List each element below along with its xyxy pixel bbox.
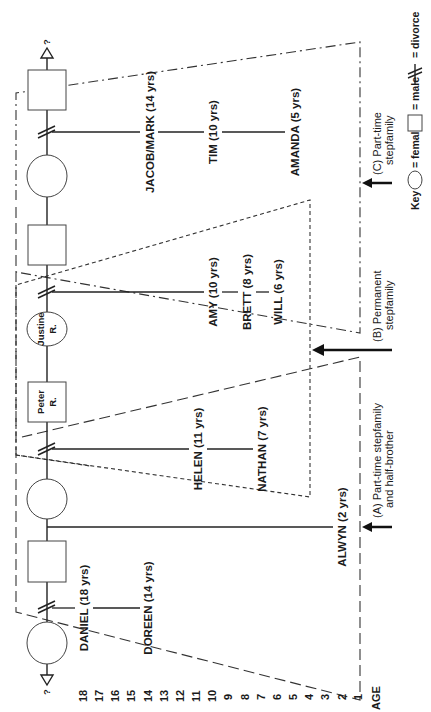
age-tick: 6 [271, 694, 283, 700]
age-tick: 2 [336, 694, 348, 700]
child-will: WILL (6 yrs) [272, 259, 284, 325]
member-label-justine: Justine [35, 312, 46, 345]
age-axis-label: AGE [370, 686, 382, 710]
key-divorce-label: = divorce [409, 11, 421, 58]
stepfamily-b-label: (B) Permanent [371, 270, 383, 342]
key-male-icon [408, 115, 422, 131]
unknown-ancestor-bottom-icon [41, 675, 53, 685]
male-symbol [28, 225, 66, 265]
member-label-peter: Peter [35, 390, 46, 414]
age-tick: 4 [303, 693, 315, 700]
member-label-peter-initial: R. [47, 397, 58, 407]
key-title: Key [409, 191, 421, 210]
child-jacob-mark: JACOB/MARK (14 yrs) [144, 71, 156, 193]
child-helen: HELEN (11 yrs) [192, 408, 204, 491]
child-brett: BRETT (8 yrs) [241, 254, 253, 330]
key-female-icon [408, 171, 422, 189]
age-tick: 11 [190, 690, 202, 702]
female-symbol [27, 479, 67, 519]
stepfamily-b-label-2: stepfamily [383, 280, 395, 330]
age-tick: 9 [222, 694, 234, 700]
arrow-icon-c [362, 178, 392, 188]
stepfamily-a-label: (A) Part-time stepfamily [371, 403, 383, 518]
female-symbol [27, 155, 67, 197]
age-axis: 18 17 16 15 14 13 12 11 10 9 8 7 6 5 4 3… [77, 686, 382, 710]
age-tick: 5 [287, 694, 299, 700]
child-lines [47, 132, 333, 608]
member-label-justine-initial: R. [47, 324, 58, 334]
child-amy: AMY (10 yrs) [207, 257, 219, 327]
child-nathan: NATHAN (7 yrs) [256, 406, 268, 492]
key-female-label: = female [409, 126, 421, 168]
unknown-ancestor-top-icon [41, 48, 53, 58]
age-tick: 14 [142, 689, 154, 702]
age-tick: 12 [174, 690, 186, 702]
male-symbol [28, 541, 66, 582]
female-symbol [27, 622, 67, 664]
age-tick: 15 [125, 690, 137, 702]
age-tick: 17 [93, 690, 105, 702]
stepfamily-a-label-2: and half-brother [383, 430, 395, 508]
child-amanda: AMANDA (5 yrs) [289, 88, 301, 177]
unknown-label-bottom: ? [41, 689, 52, 695]
arrow-icon-a [362, 522, 392, 532]
age-tick: 7 [255, 694, 267, 700]
age-tick: 3 [319, 694, 331, 700]
unknown-label-top: ? [41, 39, 52, 45]
arrow-icon-b [312, 344, 392, 356]
age-tick: 10 [206, 690, 218, 702]
stepfamily-c-label: (C) Part-time [371, 112, 383, 175]
age-tick: 18 [77, 690, 89, 702]
age-tick: 16 [109, 690, 121, 702]
age-tick: 8 [239, 694, 251, 700]
child-alwyn: ALWYN (2 yrs) [336, 487, 348, 566]
child-doreen: DOREEN (14 yrs) [142, 561, 154, 654]
male-symbol [28, 70, 66, 110]
child-tim: TIM (10 yrs) [207, 100, 219, 164]
age-tick: 13 [158, 690, 170, 702]
stepfamily-c-boundary [16, 42, 360, 333]
age-tick: 1 [352, 694, 364, 700]
child-daniel: DANIEL (18 yrs) [78, 564, 90, 651]
stepfamily-c-label-2: stepfamily [383, 115, 395, 165]
genogram-diagram: Justine R. Peter R. ? ? JACOB/MARK (14 y… [0, 0, 431, 712]
